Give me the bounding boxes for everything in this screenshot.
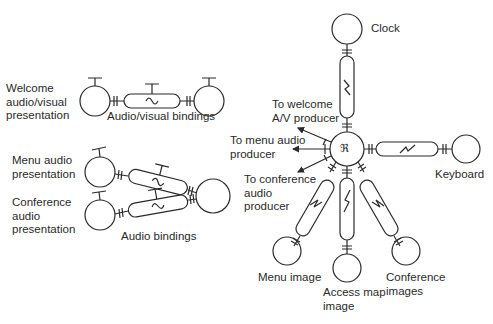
port-icon	[364, 144, 376, 154]
to-welcome-producer-label: To welcome A/V producer	[272, 98, 339, 125]
lightning-icon	[344, 190, 350, 212]
lightning-icon	[372, 200, 384, 207]
access-map-node[interactable]	[333, 254, 361, 282]
port-icon	[342, 118, 352, 132]
port-icon	[110, 96, 124, 106]
port-icon	[115, 208, 128, 218]
welcome-left-node[interactable]	[80, 86, 110, 116]
av-bindings-label: Audio/visual bindings	[107, 110, 215, 124]
port-icon	[180, 96, 194, 106]
clock-node[interactable]	[332, 14, 362, 44]
to-menu-producer-label: To menu audio producer	[230, 134, 305, 161]
port-icon	[342, 44, 352, 56]
audio-bindings-label: Audio bindings	[121, 230, 196, 244]
conference-audio-label: Conference audio presentation	[12, 196, 75, 237]
wave-icon	[151, 178, 164, 187]
port-icon	[342, 240, 352, 254]
conference-images-node[interactable]	[392, 237, 420, 265]
conference-images-label: Conference images	[386, 271, 445, 298]
menu-image-label: Menu image	[258, 271, 321, 285]
tee-icon	[202, 78, 216, 86]
wave-icon	[146, 98, 158, 104]
menu-audio-node[interactable]	[85, 157, 115, 187]
to-conference-producer-label: To conference audio producer	[244, 173, 316, 214]
access-map-image-label: Access map image	[323, 286, 386, 313]
welcome-presentation-label: Welcome audio/visual presentation	[6, 82, 69, 123]
menu-audio-label: Menu audio presentation	[12, 154, 75, 181]
tee-icon	[92, 147, 106, 157]
port-icon	[358, 162, 366, 172]
conference-images-binding-capsule[interactable]	[357, 178, 400, 239]
port-icon	[115, 170, 128, 180]
tee-icon	[145, 84, 159, 94]
lightning-icon	[400, 145, 415, 153]
shared-audio-node[interactable]	[196, 179, 230, 213]
port-icon	[342, 166, 352, 178]
hub-symbol: ℜ	[340, 142, 349, 156]
tee-icon	[88, 78, 102, 86]
audio-bindings-group	[85, 147, 230, 230]
conference-audio-node[interactable]	[85, 200, 115, 230]
wave-icon	[152, 202, 165, 210]
access-map-binding-capsule[interactable]	[340, 178, 354, 240]
menu-image-node[interactable]	[273, 237, 301, 265]
keyboard-node[interactable]	[452, 135, 480, 163]
lightning-icon	[344, 80, 350, 95]
port-icon	[438, 144, 452, 154]
keyboard-label: Keyboard	[435, 168, 484, 182]
clock-label: Clock	[371, 22, 400, 36]
port-icon	[328, 162, 336, 172]
tee-icon	[92, 191, 106, 200]
